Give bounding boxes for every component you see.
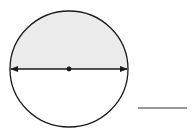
shaded-upper-half [10, 11, 128, 69]
center-point [67, 67, 72, 72]
diagram-canvas [0, 0, 195, 131]
